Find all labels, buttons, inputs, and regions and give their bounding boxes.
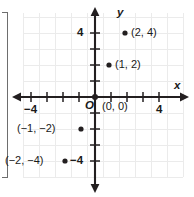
coordinate-plane-figure: y x O −4 4 4 −4 (2, 4) (1, 2) (0, 0) (−1… xyxy=(0,0,194,197)
origin-label: O xyxy=(85,100,94,112)
point-label-0-0: (0, 0) xyxy=(102,101,128,112)
point-label-neg2-neg4: (−2, −4) xyxy=(5,155,44,166)
data-point-neg1-neg2 xyxy=(78,126,83,131)
coordinate-plane-graphic xyxy=(0,0,194,197)
point-label-neg1-neg2: (−1, −2) xyxy=(17,123,56,134)
point-label-2-4: (2, 4) xyxy=(131,27,157,38)
y-axis-arrow-bottom xyxy=(91,184,100,193)
x-tick-label-4: 4 xyxy=(156,104,162,116)
x-tick-label-neg4: −4 xyxy=(24,104,37,116)
data-point-1-2 xyxy=(106,62,111,67)
y-axis-arrow-top xyxy=(91,7,100,16)
y-axis-label: y xyxy=(117,7,123,19)
point-label-1-2: (1, 2) xyxy=(115,59,141,70)
data-point-neg2-neg4 xyxy=(62,158,67,163)
y-tick-label-neg4: −4 xyxy=(70,155,83,167)
x-axis-label: x xyxy=(174,80,180,92)
data-point-2-4 xyxy=(122,30,127,35)
x-axis-arrow-left xyxy=(12,93,21,102)
y-tick-label-4: 4 xyxy=(77,27,83,39)
x-axis-arrow-right xyxy=(180,93,189,102)
